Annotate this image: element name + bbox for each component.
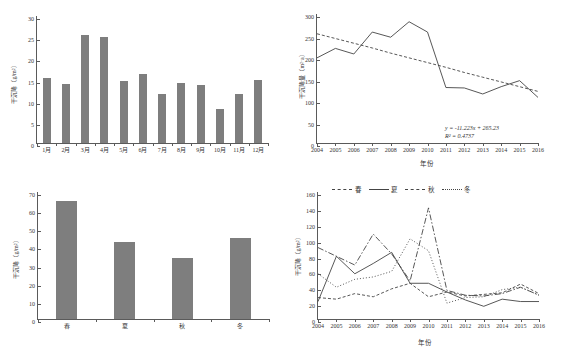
x-axis-tick-label: 2016	[532, 147, 544, 154]
seasonal-annual-plot-area: 0204060801001201401602004200520062007200…	[317, 192, 539, 320]
data-series-line	[318, 283, 539, 299]
bar	[81, 35, 89, 143]
x-axis-tick-label: 2005	[329, 147, 341, 154]
x-axis-tick-mark	[269, 319, 270, 322]
x-axis-tick-mark	[539, 319, 540, 322]
x-axis-tick-mark	[484, 319, 485, 322]
bar	[254, 80, 262, 144]
x-axis-tick-label: 2004	[311, 147, 323, 154]
y-axis-tick: 50	[308, 122, 317, 128]
bar	[100, 37, 108, 143]
x-axis-tick-mark	[38, 319, 39, 322]
bar	[197, 85, 205, 143]
x-axis-tick-mark	[335, 143, 336, 146]
legend-item[interactable]: 春	[332, 184, 362, 194]
x-axis-tick-mark	[392, 319, 393, 322]
y-axis-tick: 120	[306, 224, 318, 230]
x-axis-tick-mark	[373, 319, 374, 322]
figure-container: 干沉降（g/m²） 0510152025301月2月3月4月5月6月7月8月9月…	[0, 0, 561, 359]
bar	[120, 81, 128, 143]
annual-y-axis-label: 干沉降量（m²·a）	[299, 42, 305, 108]
x-axis-tick-label: 2月	[61, 147, 70, 154]
x-axis-tick-mark	[230, 143, 231, 146]
legend-item[interactable]: 秋	[405, 184, 435, 194]
x-axis-tick-mark	[76, 143, 77, 146]
data-series-line	[317, 34, 538, 92]
bar	[43, 78, 51, 143]
x-axis-tick-label: 2004	[312, 323, 324, 330]
monthly-y-axis-label: 干沉降（g/m²）	[11, 53, 17, 113]
y-axis-tick: 40	[29, 246, 38, 252]
legend-item[interactable]: 冬	[442, 184, 472, 194]
x-axis-tick-mark	[538, 143, 539, 146]
bar	[230, 238, 251, 319]
y-axis-tick: 15	[28, 80, 37, 86]
x-axis-tick-label: 2013	[477, 147, 489, 154]
bar	[62, 84, 70, 143]
data-series-line	[318, 252, 539, 306]
x-axis-tick-mark	[96, 319, 97, 322]
y-axis-tick: 100	[306, 240, 318, 246]
y-axis-tick: 20	[28, 58, 37, 64]
x-axis-tick-mark	[520, 143, 521, 146]
x-axis-tick-label: 2007	[367, 323, 379, 330]
x-axis-tick-mark	[114, 143, 115, 146]
legend-item[interactable]: 夏	[369, 184, 399, 194]
panel-seasonal-dry-deposition: 干沉降（g/m²） 010203040506070春夏秋冬	[0, 180, 285, 359]
legend-label: 秋	[428, 184, 435, 194]
series-canvas	[318, 192, 539, 319]
x-axis-tick-label: 6月	[138, 147, 147, 154]
x-axis-tick-label: 2007	[366, 147, 378, 154]
y-axis-tick: 40	[309, 287, 318, 293]
seasonal-annual-y-axis-label: 干沉降（g/m²）	[295, 225, 301, 285]
data-series-line	[318, 239, 539, 303]
x-axis-tick-mark	[211, 319, 212, 322]
y-axis-tick: 30	[28, 16, 37, 22]
x-axis-tick-mark	[429, 319, 430, 322]
bar	[114, 242, 135, 319]
x-axis-tick-label: 2008	[385, 147, 397, 154]
legend-swatch-冬	[442, 189, 462, 190]
series-canvas	[317, 14, 538, 143]
x-axis-tick-label: 秋	[179, 323, 185, 330]
x-axis-tick-mark	[354, 143, 355, 146]
x-axis-tick-mark	[268, 143, 269, 146]
x-axis-tick-label: 2010	[423, 323, 435, 330]
x-axis-tick-label: 2012	[459, 323, 471, 330]
x-axis-tick-mark	[355, 319, 356, 322]
x-axis-tick-mark	[317, 143, 318, 146]
x-axis-tick-label: 10月	[214, 147, 226, 154]
x-axis-tick-label: 11月	[233, 147, 245, 154]
bar	[235, 94, 243, 143]
x-axis-tick-label: 12月	[252, 147, 264, 154]
x-axis-tick-label: 2006	[348, 147, 360, 154]
y-axis-tick: 70	[29, 192, 38, 198]
x-axis-tick-label: 2006	[349, 323, 361, 330]
r-squared-value: R² = 0.4737	[445, 132, 474, 140]
x-axis-tick-mark	[501, 143, 502, 146]
panel-annual-trend: 干沉降量（m²·a） 05010015020025030020042005200…	[285, 0, 561, 180]
x-axis-tick-mark	[154, 319, 155, 322]
x-axis-tick-label: 2009	[404, 323, 416, 330]
x-axis-tick-mark	[502, 319, 503, 322]
x-axis-tick-label: 2016	[533, 323, 545, 330]
x-axis-tick-mark	[249, 143, 250, 146]
x-axis-tick-mark	[372, 143, 373, 146]
x-axis-tick-mark	[521, 319, 522, 322]
seasonal-plot-area: 010203040506070春夏秋冬	[37, 192, 269, 320]
x-axis-tick-label: 9月	[196, 147, 205, 154]
seasonal-annual-legend: 春夏秋冬	[332, 184, 471, 194]
legend-swatch-春	[332, 189, 352, 190]
y-axis-tick: 30	[29, 265, 38, 271]
legend-label: 冬	[464, 184, 471, 194]
bar	[158, 94, 166, 143]
x-axis-tick-label: 2015	[514, 147, 526, 154]
x-axis-tick-label: 4月	[100, 147, 109, 154]
x-axis-tick-label: 2014	[496, 323, 508, 330]
x-axis-tick-label: 3月	[81, 147, 90, 154]
monthly-plot-area: 0510152025301月2月3月4月5月6月7月8月9月10月11月12月	[36, 16, 268, 144]
x-axis-tick-mark	[133, 143, 134, 146]
bar	[177, 83, 185, 143]
x-axis-tick-label: 2011	[441, 323, 453, 330]
y-axis-tick: 10	[29, 301, 38, 307]
